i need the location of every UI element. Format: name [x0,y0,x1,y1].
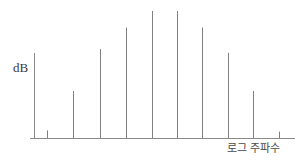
spectrum-figure: dB 로그 주파수 [0,0,305,167]
spike-series [48,11,280,138]
y-axis-label: dB [13,61,28,74]
x-axis-label: 로그 주파수 [227,143,281,154]
